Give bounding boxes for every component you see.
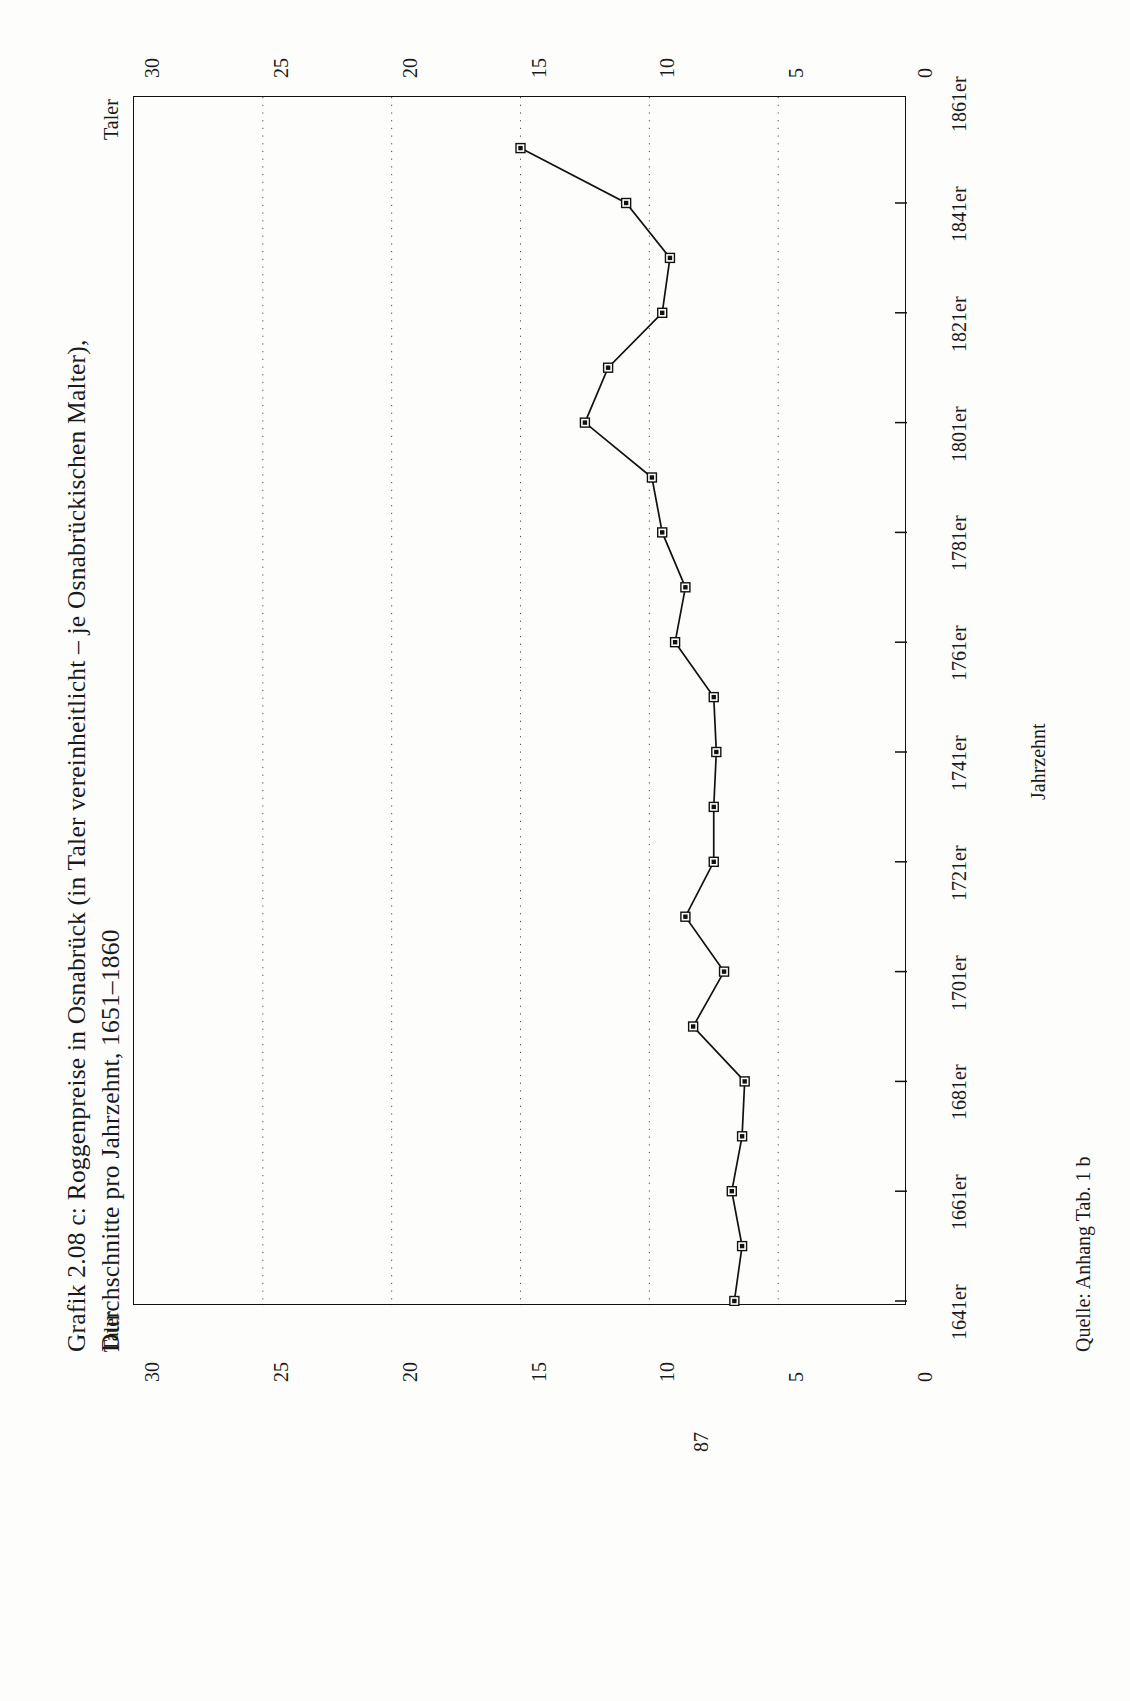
category-axis-label: Jahrzehnt (1027, 723, 1050, 800)
category-tick-label: 1681er (948, 1065, 971, 1121)
category-tick-label: 1801er (948, 406, 971, 462)
value-axis-caption-bottom: Taler (100, 1311, 123, 1352)
gridlines (263, 97, 778, 1306)
category-tick-label: 1821er (948, 296, 971, 352)
value-tick-label: 30 (141, 1362, 164, 1382)
category-tick-label: 1761er (948, 626, 971, 682)
value-tick-label: 25 (270, 58, 293, 78)
figure-title-line-1: Grafik 2.08 c: Roggenpreise in Osnabrück… (62, 339, 92, 1352)
value-tick-label: 25 (270, 1362, 293, 1382)
value-tick-label: 15 (528, 58, 551, 78)
category-tick-label: 1861er (948, 77, 971, 133)
value-tick-label: 20 (399, 1362, 422, 1382)
category-axis-ticks (895, 203, 907, 1301)
series-line (521, 148, 745, 1301)
category-tick-label: 1721er (948, 845, 971, 901)
category-tick-label: 1781er (948, 516, 971, 572)
value-tick-label: 0 (914, 1372, 937, 1382)
plot-area (133, 96, 906, 1305)
category-tick-label: 1661er (948, 1175, 971, 1231)
source-note: Quelle: Anhang Tab. 1 b (1072, 1157, 1095, 1352)
page-number: 87 (690, 1432, 713, 1452)
value-tick-label: 5 (785, 68, 808, 78)
category-tick-label: 1741er (948, 735, 971, 791)
value-tick-label: 15 (528, 1362, 551, 1382)
value-tick-label: 0 (914, 68, 937, 78)
value-tick-label: 10 (656, 58, 679, 78)
value-axis-caption-top: Taler (100, 99, 123, 140)
value-tick-label: 20 (399, 58, 422, 78)
value-tick-label: 30 (141, 58, 164, 78)
figure-title-line-2: Durchschnitte pro Jahrzehnt, 1651–1860 (96, 929, 126, 1352)
value-tick-label: 10 (656, 1362, 679, 1382)
line-chart-svg (134, 97, 907, 1306)
category-tick-label: 1701er (948, 955, 971, 1011)
category-tick-label: 1641er (948, 1284, 971, 1340)
category-tick-label: 1841er (948, 186, 971, 242)
value-tick-label: 5 (785, 1372, 808, 1382)
